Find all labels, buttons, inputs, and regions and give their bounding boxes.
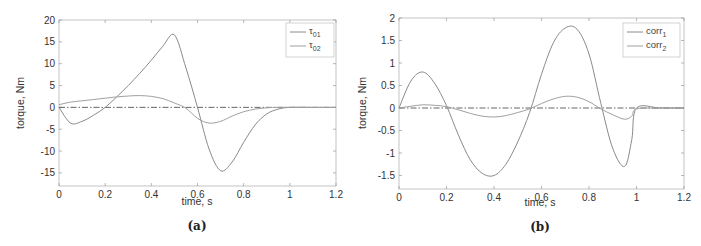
chart-panel-b: 00.20.40.60.811.2-1.5-1-0.500.511.52corr… — [378, 13, 692, 204]
y-tick-label: 0.5 — [381, 80, 395, 91]
y-tick-label: 0 — [389, 103, 395, 114]
x-tick-label: 0.4 — [144, 189, 158, 200]
y-tick-label: 5 — [49, 80, 55, 91]
figure: 00.20.40.60.811.2-15-10-505101520τ01τ02 … — [0, 0, 701, 246]
y-tick-label: 20 — [44, 15, 56, 26]
y-tick-label: -5 — [46, 124, 55, 135]
y-tick-label: 1.5 — [381, 35, 395, 46]
y-tick-label: 15 — [44, 36, 56, 47]
y-tick-label: -15 — [41, 167, 56, 178]
x-tick-label: 1.2 — [329, 189, 343, 200]
y-tick-label: 10 — [44, 58, 56, 69]
x-tick-label: 0 — [396, 192, 402, 203]
x-tick-label: 0.4 — [487, 192, 501, 203]
y-axis-label-b: torque, Nm — [356, 77, 368, 129]
y-tick-label: -1 — [386, 148, 395, 159]
y-axis-label-a: torque, Nm — [14, 77, 26, 129]
x-tick-label: 0.8 — [582, 192, 596, 203]
chart-panel-a: 00.20.40.60.811.2-15-10-505101520τ01τ02 — [41, 15, 344, 201]
y-tick-label: 0 — [49, 102, 55, 113]
x-tick-label: 1 — [634, 192, 640, 203]
y-tick-label: -1.5 — [378, 170, 396, 181]
x-tick-label: 0.2 — [98, 189, 112, 200]
x-tick-label: 0 — [56, 189, 62, 200]
y-tick-label: 1 — [389, 58, 395, 69]
y-tick-label: -0.5 — [378, 125, 396, 136]
x-tick-label: 0.8 — [237, 189, 251, 200]
legend: τ01τ02 — [286, 23, 334, 57]
x-tick-label: 1.2 — [677, 192, 691, 203]
caption-b: (b) — [530, 220, 550, 234]
x-tick-label: 1 — [287, 189, 293, 200]
y-tick-label: 2 — [389, 13, 395, 24]
caption-a: (a) — [187, 219, 206, 233]
x-tick-label: 0.2 — [440, 192, 454, 203]
y-tick-label: -10 — [41, 146, 56, 157]
x-axis-label-a: time, s — [182, 195, 213, 207]
x-axis-label-b: time, s — [525, 196, 556, 208]
legend: corr1corr2 — [623, 23, 680, 57]
